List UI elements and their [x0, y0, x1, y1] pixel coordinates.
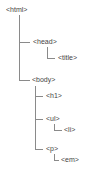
node-title: <title>	[58, 54, 77, 62]
node-ul: <ul>	[46, 115, 60, 123]
node-p: <p>	[46, 145, 58, 153]
node-html: <html>	[6, 6, 27, 14]
connector-body	[19, 80, 30, 81]
connector-p	[35, 149, 43, 150]
node-li: <li>	[64, 126, 75, 134]
connector-li	[54, 130, 62, 131]
connector-em	[54, 160, 59, 161]
node-body: <body>	[32, 76, 55, 84]
connector-h1	[35, 96, 43, 97]
node-h1: <h1>	[46, 92, 62, 100]
connector-head	[19, 42, 30, 43]
connector-title	[47, 58, 55, 59]
node-head: <head>	[33, 38, 57, 46]
node-em: <em>	[61, 156, 79, 164]
connector-ul	[35, 119, 43, 120]
connector-html-trunk	[19, 15, 20, 81]
